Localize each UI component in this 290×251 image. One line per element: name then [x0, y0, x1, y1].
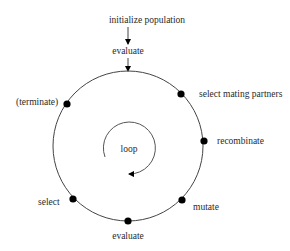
- node-label-mutate: mutate: [193, 202, 219, 212]
- node-label-select-mating-partners: select mating partners: [199, 89, 283, 99]
- ga-cycle-diagram: initialize population evaluate select ma…: [0, 0, 290, 251]
- node-dot-mutate: [178, 196, 185, 203]
- node-label-select: select: [38, 197, 60, 207]
- node-label-evaluate: evaluate: [112, 231, 144, 241]
- node-dot-recombinate: [200, 137, 207, 144]
- node-dot-select-mating-partners: [177, 90, 184, 97]
- node-dot-select: [69, 195, 76, 202]
- loop-label: loop: [121, 144, 138, 154]
- node-dot-evaluate: [124, 217, 131, 224]
- node-label-terminate: (terminate): [16, 97, 58, 108]
- node-label-recombinate: recombinate: [217, 136, 264, 146]
- node-dot-terminate: [63, 100, 70, 107]
- first-evaluate-label: evaluate: [112, 46, 144, 56]
- initialize-population-label: initialize population: [109, 15, 185, 25]
